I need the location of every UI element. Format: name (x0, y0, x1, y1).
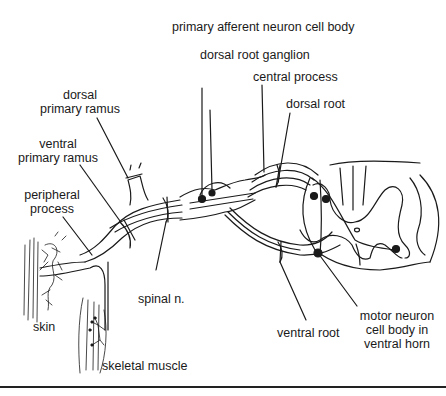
dorsal-root-ganglion (180, 88, 265, 220)
label-line: cell body in (352, 323, 442, 337)
label-dorsal-root-ganglion: dorsal root ganglion (200, 48, 310, 62)
label-peripheral-process: peripheral process (22, 188, 82, 216)
label-motor-neuron-cell-body: motor neuron cell body in ventral horn (352, 309, 442, 351)
label-dorsal-primary-ramus: dorsal primary ramus (40, 88, 120, 116)
label-spinal-nerve: spinal n. (138, 292, 185, 306)
label-ventral-primary-ramus: ventral primary ramus (18, 137, 98, 165)
label-line: motor neuron (352, 309, 442, 323)
label-line: primary ramus (40, 102, 120, 116)
label-line: ventral (18, 137, 98, 151)
label-skin: skin (33, 320, 55, 334)
label-line: primary ramus (18, 151, 98, 165)
label-line: ventral horn (352, 337, 442, 351)
label-skeletal-muscle: skeletal muscle (102, 359, 187, 373)
label-central-process: central process (253, 70, 338, 84)
label-line: peripheral (22, 188, 82, 202)
label-line: dorsal (40, 88, 120, 102)
bottom-divider (0, 386, 446, 388)
label-primary-afferent-neuron-cell-body: primary afferent neuron cell body (172, 20, 355, 34)
label-dorsal-root: dorsal root (286, 97, 345, 111)
skin-illustration (24, 232, 66, 322)
label-line: process (22, 202, 82, 216)
peripheral-process (40, 217, 108, 330)
ventral-root-bundle (225, 208, 340, 320)
label-ventral-root: ventral root (277, 326, 340, 340)
